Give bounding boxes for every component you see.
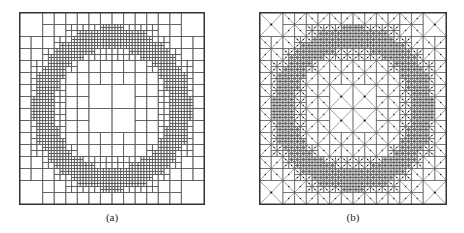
triangular-mesh <box>259 12 447 205</box>
caption-a: (a) <box>92 211 132 223</box>
caption-b: (b) <box>333 211 373 223</box>
triangular-mesh-panel <box>259 12 447 205</box>
quadtree-mesh-panel <box>19 12 205 205</box>
quadtree-mesh <box>19 12 205 205</box>
